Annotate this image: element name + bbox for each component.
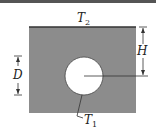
height-dimension: H: [136, 27, 148, 75]
svg-text:1: 1: [92, 120, 97, 129]
depth-label: D: [12, 68, 23, 82]
diagram-canvas: H D T 2 T 1: [0, 0, 156, 132]
top-temperature-label: T 2: [77, 11, 90, 27]
svg-text:2: 2: [85, 18, 90, 27]
cylinder-temperature-label: T 1: [84, 113, 97, 129]
height-label: H: [136, 44, 148, 58]
depth-dimension: D: [12, 56, 23, 95]
